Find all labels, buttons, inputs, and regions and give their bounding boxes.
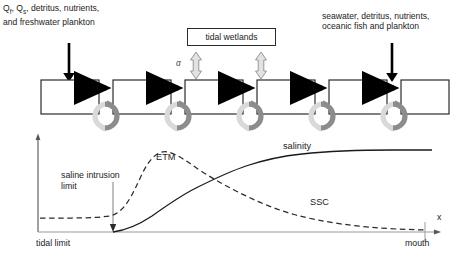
salinity-label: salinity: [283, 141, 311, 151]
saline-intrusion-limit-line1: saline intrusion: [61, 170, 120, 180]
mouth-label: mouth: [405, 238, 429, 248]
saline-intrusion-limit-label: saline intrusionlimit: [61, 170, 120, 191]
x-axis-label: x: [437, 212, 441, 222]
ssc-label: SSC: [310, 197, 329, 207]
etm-label: ETM: [156, 152, 175, 162]
saline-intrusion-limit-line2: limit: [61, 181, 77, 191]
graph-layer: [0, 0, 463, 261]
y-axis: [36, 134, 41, 233]
x-axis: [38, 230, 441, 235]
tidal-limit-label: tidal limit: [36, 238, 70, 248]
salinity-curve: [113, 150, 432, 232]
diagram-canvas: Qf, Qs, detritus, nutrients,and freshwat…: [0, 0, 463, 261]
